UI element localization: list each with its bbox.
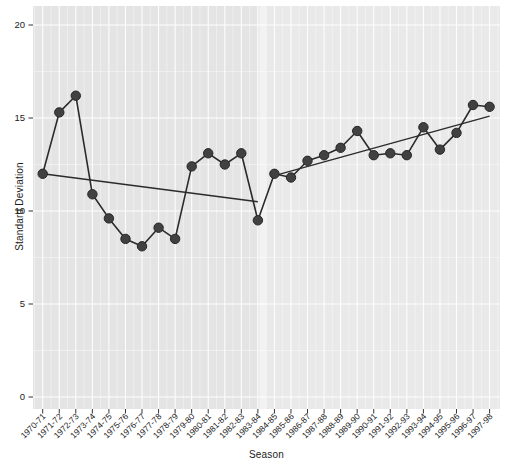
data-point <box>369 151 378 160</box>
data-point <box>286 173 295 182</box>
data-point <box>104 214 113 223</box>
x-axis-title: Season <box>33 449 500 460</box>
data-point <box>88 190 97 199</box>
data-point <box>187 162 196 171</box>
data-point <box>452 128 461 137</box>
standard-deviation-chart-figure: 051015201970-711971-721972-731973-741974… <box>0 0 505 476</box>
x-tick-labels: 1970-711971-721972-731973-741974-751975-… <box>18 411 494 440</box>
data-point <box>386 149 395 158</box>
data-point <box>485 102 494 111</box>
data-point <box>237 149 246 158</box>
data-point <box>419 123 428 132</box>
y-tick-label: 5 <box>20 298 25 309</box>
y-tick-label: 20 <box>14 19 25 30</box>
y-tick-label: 15 <box>14 112 25 123</box>
line-chart: 051015201970-711971-721972-731973-741974… <box>0 0 505 476</box>
data-point <box>220 160 229 169</box>
data-point <box>303 156 312 165</box>
data-point <box>270 169 279 178</box>
y-tick-label: 0 <box>20 391 25 402</box>
data-point <box>319 151 328 160</box>
data-point <box>353 126 362 135</box>
data-point <box>468 100 477 109</box>
data-point <box>137 242 146 251</box>
data-point <box>38 169 47 178</box>
data-point <box>204 149 213 158</box>
data-point <box>71 91 80 100</box>
data-point <box>121 234 130 243</box>
data-point <box>154 223 163 232</box>
data-point <box>336 143 345 152</box>
data-point <box>55 108 64 117</box>
data-point <box>170 234 179 243</box>
data-point <box>253 216 262 225</box>
y-axis-title: Standard Deviation <box>14 157 25 257</box>
data-point <box>435 145 444 154</box>
data-point <box>402 151 411 160</box>
